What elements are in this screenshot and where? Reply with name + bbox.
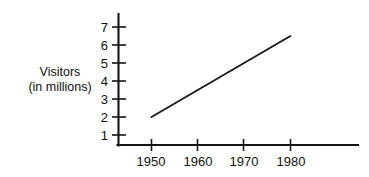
y-axis-title-line1: Visitors: [8, 65, 112, 80]
data-series-line: [152, 36, 291, 117]
y-tick-label-7: 7: [101, 20, 108, 35]
y-tick-label-2: 2: [101, 110, 108, 125]
y-tick-label-6: 6: [101, 38, 108, 53]
line-chart: 7 6 5 4 3 2 1 1950 1960 1970 1980 Visito…: [0, 0, 369, 177]
x-axis-tick-labels: 1950 1960 1970 1980: [137, 154, 306, 169]
y-axis-title: Visitors (in millions): [8, 65, 112, 95]
x-tick-label-1960: 1960: [184, 154, 213, 169]
x-tick-label-1980: 1980: [277, 154, 306, 169]
x-tick-label-1970: 1970: [230, 154, 259, 169]
y-tick-label-1: 1: [101, 128, 108, 143]
x-tick-label-1950: 1950: [137, 154, 166, 169]
y-axis-title-line2: (in millions): [8, 80, 112, 95]
